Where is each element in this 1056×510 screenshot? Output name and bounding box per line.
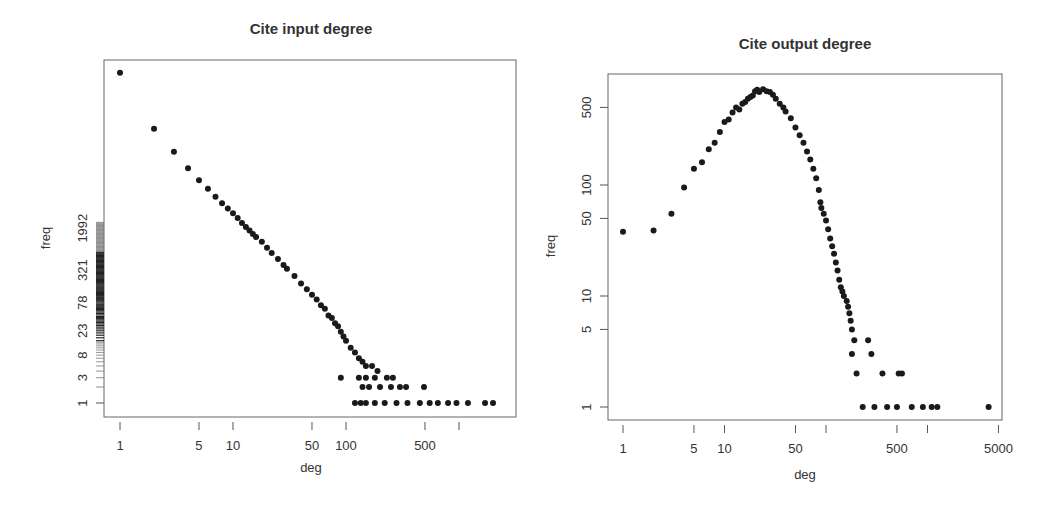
y-rug bbox=[96, 222, 104, 403]
data-point bbox=[435, 400, 441, 406]
data-point bbox=[196, 177, 202, 183]
data-point bbox=[804, 149, 810, 155]
data-point bbox=[894, 404, 900, 410]
x-tick-label: 100 bbox=[335, 438, 357, 453]
data-point bbox=[868, 351, 874, 357]
data-point bbox=[846, 310, 852, 316]
data-point bbox=[372, 375, 378, 381]
data-point bbox=[421, 384, 427, 390]
data-point bbox=[417, 400, 423, 406]
data-point bbox=[427, 400, 433, 406]
data-point bbox=[363, 375, 369, 381]
data-point bbox=[304, 286, 310, 292]
data-point bbox=[668, 211, 674, 217]
data-point bbox=[369, 363, 375, 369]
data-point bbox=[736, 106, 742, 112]
data-point bbox=[403, 384, 409, 390]
data-point bbox=[269, 250, 275, 256]
data-point bbox=[372, 400, 378, 406]
data-point bbox=[338, 375, 344, 381]
data-point bbox=[929, 404, 935, 410]
y-tick-label: 10 bbox=[579, 289, 594, 303]
y-tick-label: 23 bbox=[75, 324, 90, 338]
data-point bbox=[390, 375, 396, 381]
data-point bbox=[264, 245, 270, 251]
data-point bbox=[253, 234, 259, 240]
data-point bbox=[706, 146, 712, 152]
x-tick-label: 5 bbox=[195, 438, 202, 453]
data-point bbox=[730, 109, 736, 115]
data-point bbox=[185, 165, 191, 171]
data-point bbox=[717, 129, 723, 135]
y-tick-label: 100 bbox=[579, 174, 594, 196]
data-point bbox=[235, 215, 241, 221]
data-point bbox=[388, 384, 394, 390]
data-point bbox=[726, 116, 732, 122]
y-axis: 151050100500 bbox=[579, 97, 608, 411]
chart-panel-output-degree: Cite output degree 1510505005000 1510501… bbox=[543, 35, 1013, 482]
data-point bbox=[836, 277, 842, 283]
data-point bbox=[171, 149, 177, 155]
x-tick-label: 5 bbox=[690, 441, 697, 456]
data-point bbox=[352, 349, 358, 355]
data-point bbox=[445, 400, 451, 406]
data-point bbox=[212, 194, 218, 200]
data-point bbox=[851, 337, 857, 343]
data-point bbox=[848, 318, 854, 324]
data-point bbox=[259, 239, 265, 245]
data-point bbox=[309, 292, 315, 298]
y-tick-label: 1992 bbox=[75, 214, 90, 243]
data-point bbox=[360, 384, 366, 390]
chart-title: Cite output degree bbox=[739, 35, 872, 52]
data-point bbox=[827, 235, 833, 241]
data-point bbox=[800, 140, 806, 146]
x-tick-label: 10 bbox=[226, 438, 240, 453]
data-point bbox=[831, 251, 837, 257]
y-tick-label: 50 bbox=[579, 211, 594, 225]
x-tick-label: 500 bbox=[414, 438, 436, 453]
data-point bbox=[363, 363, 369, 369]
y-axis: 13823783211992 bbox=[75, 214, 90, 407]
y-tick-label: 3 bbox=[75, 374, 90, 381]
data-point bbox=[816, 187, 822, 193]
y-tick-label: 321 bbox=[75, 259, 90, 281]
data-points bbox=[620, 86, 992, 410]
data-point bbox=[352, 400, 358, 406]
data-point bbox=[854, 371, 860, 377]
y-tick-label: 8 bbox=[75, 352, 90, 359]
data-point bbox=[384, 375, 390, 381]
data-point bbox=[845, 304, 851, 310]
data-point bbox=[817, 199, 823, 205]
data-point bbox=[397, 384, 403, 390]
chart-title: Cite input degree bbox=[250, 20, 373, 37]
data-point bbox=[230, 210, 236, 216]
data-point bbox=[356, 375, 362, 381]
data-point bbox=[849, 351, 855, 357]
data-point bbox=[205, 186, 211, 192]
data-point bbox=[298, 280, 304, 286]
data-point bbox=[348, 345, 354, 351]
x-axis: 1510505005000 bbox=[619, 425, 1013, 456]
data-point bbox=[691, 166, 697, 172]
data-point bbox=[829, 243, 835, 249]
data-point bbox=[329, 315, 335, 321]
data-point bbox=[807, 156, 813, 162]
data-point bbox=[358, 400, 364, 406]
data-point bbox=[275, 256, 281, 262]
data-point bbox=[884, 404, 890, 410]
data-point bbox=[833, 260, 839, 266]
data-point bbox=[151, 126, 157, 132]
x-tick-label: 500 bbox=[886, 441, 908, 456]
x-tick-label: 10 bbox=[717, 441, 731, 456]
data-point bbox=[651, 227, 657, 233]
data-point bbox=[343, 338, 349, 344]
x-tick-label: 50 bbox=[788, 441, 802, 456]
data-point bbox=[783, 108, 789, 114]
x-tick-label: 50 bbox=[305, 438, 319, 453]
data-point bbox=[792, 124, 798, 130]
x-tick-label: 1 bbox=[116, 438, 123, 453]
chart-panel-input-degree: Cite input degree 151050100500 138237832… bbox=[38, 20, 516, 475]
data-point bbox=[382, 400, 388, 406]
y-tick-label: 78 bbox=[75, 295, 90, 309]
data-point bbox=[335, 323, 341, 329]
